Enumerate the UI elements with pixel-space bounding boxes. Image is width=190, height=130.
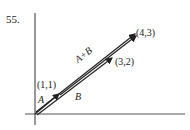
point-label-1-1: (1,1) — [37, 80, 56, 90]
vector-label-b: B — [75, 92, 81, 102]
point-label-4-3: (4,3) — [136, 28, 155, 38]
point-label-3-2: (3,2) — [115, 57, 134, 67]
vector-label-a: A — [38, 95, 44, 105]
vector-diagram — [0, 0, 190, 130]
